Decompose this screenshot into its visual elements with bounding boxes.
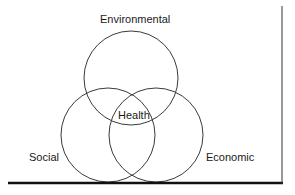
venn-graphic <box>0 0 295 195</box>
label-social: Social <box>29 151 59 163</box>
label-health: Health <box>118 109 150 121</box>
economic-circle <box>109 88 203 182</box>
social-circle <box>61 88 155 182</box>
venn-diagram: Environmental Social Economic Health <box>0 0 295 195</box>
label-environmental: Environmental <box>100 13 170 25</box>
label-economic: Economic <box>206 151 254 163</box>
